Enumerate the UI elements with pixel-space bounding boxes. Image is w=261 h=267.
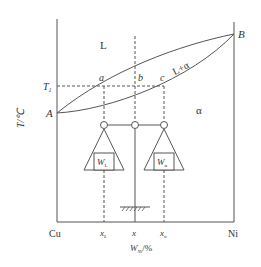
ground-hatch-icon — [122, 207, 145, 211]
point-b-label: b — [138, 72, 143, 83]
ni-label: Ni — [228, 228, 238, 239]
point-B-label: B — [238, 28, 245, 40]
x-axis-label: WNi/% — [130, 243, 153, 254]
phase-diagram: L L+α α A B a b c T1 T/℃ WL Wα Cu Ni xL … — [0, 0, 261, 267]
cu-label: Cu — [49, 228, 61, 239]
point-A-label: A — [45, 107, 53, 119]
center-pivot-icon — [132, 122, 139, 129]
point-c-label: c — [160, 72, 165, 83]
left-pivot-icon — [101, 122, 108, 129]
t1-label: T1 — [43, 81, 52, 93]
right-pivot-icon — [161, 122, 168, 129]
region-liquid-label: L — [100, 39, 107, 51]
xl-tick-label: xL — [99, 228, 107, 239]
xa-tick-label: xα — [159, 228, 167, 239]
y-axis-label: T/℃ — [15, 107, 26, 128]
point-a-label: a — [99, 72, 104, 83]
x-tick-label: x — [131, 228, 136, 238]
solidus-curve — [57, 34, 234, 113]
region-solid-label: α — [196, 104, 202, 116]
liquidus-curve — [57, 34, 234, 113]
